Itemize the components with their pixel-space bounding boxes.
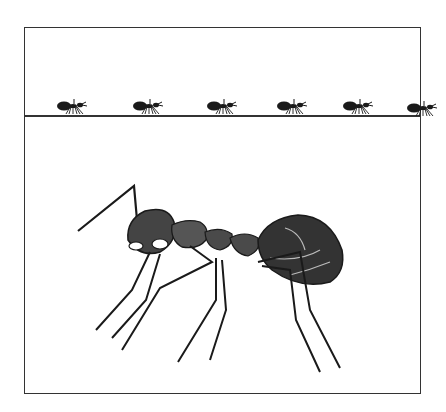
small-ant-icon <box>57 99 87 114</box>
ant-illustration <box>0 0 446 412</box>
large-ant <box>78 186 343 372</box>
small-ant-icon <box>343 99 373 114</box>
small-ant-icon <box>207 99 237 114</box>
small-ant-icon <box>407 101 437 116</box>
small-ant-icon <box>277 99 307 114</box>
small-ant-row <box>57 99 437 116</box>
small-ant-icon <box>133 99 163 114</box>
